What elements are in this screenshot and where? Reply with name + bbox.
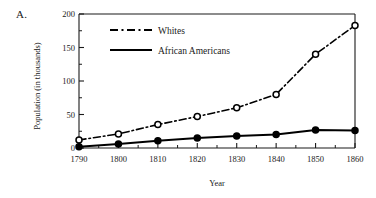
y-tick-label: 200 (62, 9, 75, 19)
legend-label-1: Whites (158, 26, 185, 36)
x-tick-label: 1810 (149, 154, 166, 164)
series-marker-1 (313, 51, 319, 57)
series-marker-1 (155, 122, 161, 128)
y-tick-label: 100 (62, 76, 75, 86)
series-marker-2 (155, 138, 161, 144)
x-tick-label: 1830 (228, 154, 245, 164)
x-axis-tick-labels: 17901800181018201830184018501860 (71, 154, 364, 164)
y-axis-tick-labels: 050100150200 (62, 9, 75, 153)
x-tick-label: 1860 (347, 154, 364, 164)
legend-label-2: African Americans (158, 46, 230, 56)
series-marker-1 (352, 22, 358, 28)
series-marker-1 (234, 105, 240, 111)
series-marker-2 (273, 132, 279, 138)
series-marker-1 (115, 131, 121, 137)
series-marker-2 (76, 144, 82, 150)
series-marker-2 (194, 135, 200, 141)
series-marker-2 (352, 128, 358, 134)
x-tick-label: 1790 (71, 154, 88, 164)
data-series-layer (76, 22, 358, 149)
series-marker-2 (234, 133, 240, 139)
y-tick-label: 0 (71, 143, 75, 153)
line-chart-plot: 050100150200 179018001810182018301840185… (0, 0, 376, 198)
series-marker-1 (194, 114, 200, 120)
series-line-1 (79, 25, 355, 140)
y-tick-label: 150 (62, 43, 75, 53)
series-marker-2 (115, 141, 121, 147)
x-tick-label: 1850 (307, 154, 324, 164)
chart-screenshot: A. Population (in thousands) Year 050100… (0, 0, 376, 198)
series-marker-2 (313, 127, 319, 133)
series-marker-1 (76, 137, 82, 143)
y-tick-label: 50 (67, 110, 76, 120)
x-tick-label: 1820 (189, 154, 206, 164)
x-tick-label: 1840 (268, 154, 285, 164)
y-axis-ticks (79, 14, 84, 148)
series-marker-1 (273, 91, 279, 97)
chart-legend: WhitesAfrican Americans (110, 26, 230, 56)
x-tick-label: 1800 (110, 154, 127, 164)
